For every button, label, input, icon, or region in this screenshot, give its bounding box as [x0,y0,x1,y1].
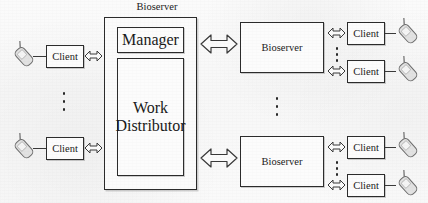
remote-client-box-2-1: Client [347,136,385,159]
work-distributor-label-line1: Work [133,99,168,117]
work-distributor-box: Work Distributor [117,58,184,176]
bioserver-label: Bioserver [262,156,303,167]
client-label: Client [52,143,78,154]
center-server-title: Bioserver [117,1,197,12]
double-headed-arrow-icon [327,25,346,41]
architecture-diagram: Bioserver Manager Work Distributor Clien… [0,0,428,203]
double-headed-arrow-icon [200,146,238,170]
client-device-wire [33,148,47,149]
remote-bioserver-box-1: Bioserver [240,22,324,73]
mobile-phone-icon [393,132,423,162]
remote-clients-ellipsis-2 [335,161,339,176]
remote-client-box-1-1: Client [347,22,385,45]
double-headed-arrow-icon [327,177,346,193]
remote-bioserver-box-2: Bioserver [240,136,324,187]
client-label: Client [52,51,78,62]
left-clients-ellipsis [62,92,66,111]
double-headed-arrow-icon [327,63,346,79]
client-label: Client [353,180,379,191]
client-label: Client [353,142,379,153]
left-client-box-1: Client [46,45,84,68]
double-headed-arrow-icon [84,48,103,64]
mobile-phone-icon [393,56,423,86]
client-device-wire [33,56,47,57]
double-headed-arrow-icon [84,140,103,156]
remote-servers-ellipsis [275,97,279,116]
left-client-box-2: Client [46,137,84,160]
remote-client-box-1-2: Client [347,60,385,83]
client-label: Client [353,28,379,39]
mobile-phone-icon [393,18,423,48]
remote-client-box-2-2: Client [347,174,385,197]
manager-box: Manager [117,27,184,53]
mobile-phone-icon [393,170,423,200]
double-headed-arrow-icon [200,32,238,56]
client-label: Client [353,66,379,77]
double-headed-arrow-icon [327,139,346,155]
work-distributor-label-line2: Distributor [115,117,185,135]
manager-label: Manager [122,31,179,49]
remote-clients-ellipsis-1 [335,47,339,62]
bioserver-label: Bioserver [262,42,303,53]
